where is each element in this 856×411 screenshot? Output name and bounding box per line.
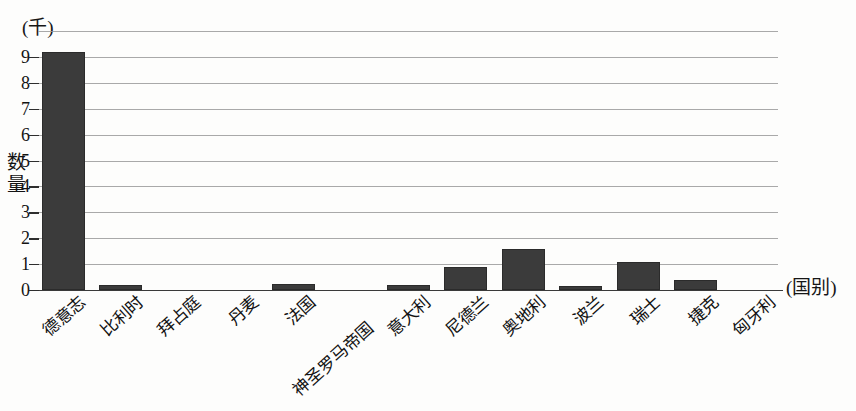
y-axis-tick-label: 7 bbox=[4, 100, 30, 118]
x-axis-tick-label: 神圣罗马帝国 bbox=[289, 318, 378, 400]
y-axis-tick-label: 0 bbox=[4, 281, 30, 299]
gridline bbox=[38, 83, 778, 84]
y-axis-tick-label: 6 bbox=[4, 126, 30, 144]
y-axis-tick-label: 2 bbox=[4, 229, 30, 247]
x-axis-tick-label: 尼德兰 bbox=[442, 292, 493, 340]
gridline bbox=[38, 135, 778, 136]
gridline bbox=[38, 186, 778, 187]
y-axis-tick bbox=[29, 135, 39, 136]
gridline bbox=[38, 109, 778, 110]
y-axis-tick-label: 1 bbox=[4, 255, 30, 273]
gridline bbox=[38, 31, 778, 32]
gridline bbox=[38, 161, 778, 162]
x-axis-tick-label: 意大利 bbox=[384, 292, 435, 340]
bar bbox=[99, 285, 142, 290]
x-axis-tick-label: 奥地利 bbox=[499, 292, 550, 340]
bar bbox=[42, 52, 85, 290]
y-axis-tick bbox=[29, 57, 39, 58]
y-axis-tick-label: 4 bbox=[4, 177, 30, 195]
x-axis-tick-label: 丹麦 bbox=[224, 292, 262, 329]
x-axis-tick-label: 法国 bbox=[282, 292, 320, 329]
bar bbox=[617, 262, 660, 290]
y-axis-tick bbox=[29, 83, 39, 84]
y-axis-tick bbox=[29, 264, 39, 265]
gridline bbox=[38, 212, 778, 213]
y-axis-tick bbox=[29, 212, 39, 213]
x-axis-tick-label: 瑞士 bbox=[627, 292, 665, 329]
x-axis-tick-label: 波兰 bbox=[569, 292, 607, 329]
x-axis-tick-label: 德意志 bbox=[39, 292, 90, 340]
y-axis-tick bbox=[29, 238, 39, 239]
bar bbox=[674, 280, 717, 290]
y-axis-tick bbox=[29, 186, 39, 187]
gridline bbox=[38, 238, 778, 239]
bar bbox=[272, 284, 315, 290]
y-axis-tick-label: 3 bbox=[4, 203, 30, 221]
y-axis-tick-label: 8 bbox=[4, 74, 30, 92]
y-axis-tick-label: 5 bbox=[4, 152, 30, 170]
bar bbox=[559, 286, 602, 290]
x-axis-tick-label: 拜占庭 bbox=[154, 292, 205, 340]
gridline bbox=[38, 264, 778, 265]
bar bbox=[502, 249, 545, 290]
bar bbox=[387, 285, 430, 290]
y-axis-tick bbox=[29, 161, 39, 162]
bar bbox=[444, 267, 487, 290]
plot-area bbox=[38, 31, 783, 290]
x-axis-tick-label: 比利时 bbox=[97, 292, 148, 340]
x-axis-caption: (国别) bbox=[786, 272, 837, 299]
y-axis-tick-labels: 0123456789 bbox=[0, 31, 30, 290]
y-axis-tick-label: 9 bbox=[4, 48, 30, 66]
gridline bbox=[38, 57, 778, 58]
y-axis-tick bbox=[29, 109, 39, 110]
x-axis-tick-labels: 德意志比利时拜占庭丹麦法国神圣罗马帝国意大利尼德兰奥地利波兰瑞士捷克匈牙利 bbox=[38, 292, 798, 407]
x-axis-tick-label: 匈牙利 bbox=[729, 292, 780, 340]
bar-chart-figure: (千) 数 量 0123456789 德意志比利时拜占庭丹麦法国神圣罗马帝国意大… bbox=[0, 0, 856, 411]
x-axis-tick-label: 捷克 bbox=[684, 292, 722, 329]
